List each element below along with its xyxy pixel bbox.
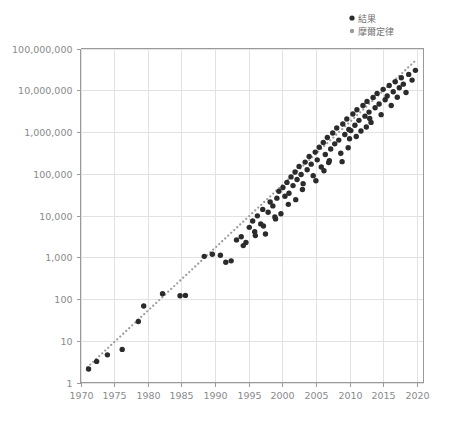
moore-law-trend-dot [107,347,109,349]
moore-law-trend-dot [224,237,226,239]
y-axis-tick-label: 100 [54,294,72,305]
data-point [218,253,223,258]
moore-law-trend-dot [350,120,352,122]
x-axis-tick-label: 1985 [169,390,193,401]
moore-law-trend-dot [353,117,355,119]
moore-law-trend-dot [404,69,406,71]
moore-law-trend-dot [104,349,106,351]
data-point [393,79,398,84]
moore-law-trend-dot [140,316,142,318]
data-point [399,75,404,80]
moore-law-trend-dot [122,333,124,335]
data-point [348,128,353,133]
moore-law-trend-dot [128,327,130,329]
moore-law-trend-dot [131,324,133,326]
moore-law-trend-dot [221,240,223,242]
data-point [387,83,392,88]
moore-law-trend-dot [119,335,121,337]
data-point [265,209,270,214]
data-point [280,185,285,190]
data-point [391,89,396,94]
moore-law-trend-dot [188,271,190,273]
moore-law-trend-dot [263,201,265,203]
data-point [413,68,418,73]
data-point [136,319,141,324]
moore-law-trend-dot [362,108,364,110]
moore-law-trend-dot [257,206,259,208]
data-point [409,77,414,82]
moore-law-trend-dot [245,218,247,220]
moore-law-trend-dot [125,330,127,332]
moore-law-trend-dot [251,212,253,214]
data-point [321,168,326,173]
data-point [384,93,389,98]
data-point [323,152,328,157]
moore-law-trend-dot [191,268,193,270]
moore-law-trend-dot [302,164,304,166]
legend-label-moore-law: 摩爾定律 [358,26,394,37]
data-point [308,161,313,166]
data-point [300,187,305,192]
data-point [250,218,255,223]
moore-law-trend-dot [200,260,202,262]
data-point [362,113,367,118]
data-point [105,352,110,357]
data-point [286,202,291,207]
moore-law-trend-dot [110,344,112,346]
moore-law-trend-dot [176,282,178,284]
x-axis-tick-label: 1980 [136,390,160,401]
data-point [270,203,275,208]
moore-law-trend-dot [413,61,415,63]
data-point [120,347,125,352]
data-point [288,174,293,179]
legend-label-results: 結果 [358,13,376,24]
y-axis-tick-label: 1,000,000 [24,127,72,138]
data-point [300,181,305,186]
moore-law-trend-dot [335,134,337,136]
data-point [253,233,258,238]
moore-law-scatter-chart: 1101001,00010,000100,0001,000,00010,000,… [0,0,450,422]
data-point [345,145,350,150]
data-point [352,123,357,128]
moore-law-trend-dot [149,307,151,309]
data-point [183,293,188,298]
data-point [263,231,268,236]
moore-law-trend-dot [359,111,361,113]
data-point [378,112,383,117]
moore-law-trend-dot [236,226,238,228]
data-point [389,103,394,108]
y-axis-tick-label: 10 [60,336,72,347]
data-point [339,159,344,164]
moore-law-trend-dot [227,235,229,237]
data-point [223,260,228,265]
data-point [302,159,307,164]
data-point [273,216,278,221]
chart-canvas: 1101001,00010,000100,0001,000,00010,000,… [0,0,450,422]
moore-law-trend-dot [341,128,343,130]
moore-law-trend-dot [113,341,115,343]
data-point [292,169,297,174]
data-point [395,95,400,100]
moore-law-trend-dot [161,296,163,298]
data-point [406,72,411,77]
data-point [293,197,298,202]
data-point [304,167,309,172]
moore-law-trend-dot [167,291,169,293]
data-point [261,223,266,228]
y-axis-tick-label: 10,000 [39,211,72,222]
data-point [313,149,318,154]
data-point [344,116,349,121]
moore-law-trend-dot [98,355,100,357]
data-point [290,183,295,188]
x-axis-tick-label: 2000 [270,390,294,401]
data-point [278,211,283,216]
data-point [372,105,377,110]
x-axis-tick-label: 2010 [338,390,362,401]
data-point [354,134,359,139]
data-point [241,243,246,248]
data-point [340,121,345,126]
moore-law-trend-dot [401,72,403,74]
data-point [313,178,318,183]
moore-law-trend-dot [326,142,328,144]
data-point [86,366,91,371]
